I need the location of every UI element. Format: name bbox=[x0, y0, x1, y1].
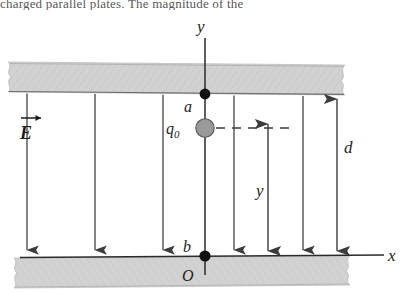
point-a-label: a bbox=[184, 98, 192, 115]
x-axis-label: x bbox=[387, 246, 396, 265]
capacitor-diagram-canvas: y x a q0 b O y bbox=[0, 0, 407, 294]
top-plate bbox=[8, 62, 345, 95]
test-charge: q0 bbox=[166, 119, 214, 140]
field-vector-label: E bbox=[19, 123, 32, 143]
dimension-y-label: y bbox=[254, 181, 264, 200]
dimension-d-label: d bbox=[344, 138, 353, 157]
origin-label: O bbox=[182, 267, 194, 284]
y-axis: y bbox=[195, 17, 205, 275]
point-b-label: b bbox=[183, 238, 191, 255]
y-axis-label: y bbox=[195, 17, 205, 36]
dimension-y: y bbox=[254, 124, 268, 251]
field-line-group bbox=[27, 94, 303, 251]
charge-label-subscript: 0 bbox=[174, 128, 180, 140]
charge-label: q0 bbox=[166, 120, 180, 140]
charge-label-symbol: q bbox=[166, 120, 174, 138]
field-vector-label-group: E bbox=[19, 115, 41, 143]
figure-root: charged parallel plates. The magnitude o… bbox=[0, 0, 407, 294]
dimension-d: d bbox=[337, 99, 353, 251]
